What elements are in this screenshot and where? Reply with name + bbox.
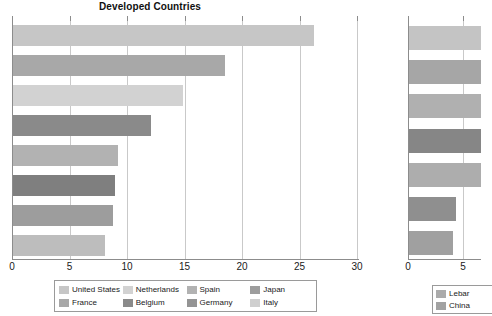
x-axis-tick-label: 25 xyxy=(294,261,305,272)
legend-label: Japan xyxy=(263,283,285,296)
second-chart-legend: LebarChina xyxy=(432,285,492,314)
legend-item[interactable]: China xyxy=(436,300,489,312)
legend-label: Germany xyxy=(200,296,233,309)
legend-item[interactable]: France xyxy=(59,296,121,309)
second-chart: 05 xyxy=(395,0,481,316)
legend-label: France xyxy=(72,296,97,309)
x-axis-tick-label: 5 xyxy=(460,261,466,272)
legend-swatch-icon xyxy=(123,299,133,307)
x-axis-labels: 051015202530 xyxy=(12,261,359,275)
legend-item[interactable]: Netherlands xyxy=(123,283,185,296)
bar xyxy=(13,175,115,196)
legend-swatch-icon xyxy=(250,299,260,307)
main-plot-area xyxy=(12,20,358,259)
legend-item[interactable]: Germany xyxy=(187,296,249,309)
x-axis-tick-label: 5 xyxy=(67,261,73,272)
legend-item[interactable]: United States xyxy=(59,283,121,296)
bar xyxy=(409,197,456,221)
legend-swatch-icon xyxy=(59,286,69,294)
legend-label: China xyxy=(449,300,470,312)
bar xyxy=(13,85,183,106)
chart-title: Developed Countries xyxy=(0,0,300,13)
legend-label: Netherlands xyxy=(136,283,179,296)
bar xyxy=(409,129,481,153)
legend-label: United States xyxy=(72,283,120,296)
bar xyxy=(409,60,481,84)
legend-label: Spain xyxy=(200,283,220,296)
main-chart-legend: United StatesNetherlandsSpainJapanFrance… xyxy=(54,280,317,312)
second-bar-series xyxy=(409,20,481,259)
legend-label: Belgium xyxy=(136,296,165,309)
developed-countries-chart: Developed Countries 051015202530 xyxy=(0,0,380,316)
legend-swatch-icon xyxy=(436,290,446,298)
second-x-axis-line xyxy=(408,259,481,260)
bar xyxy=(409,94,481,118)
x-axis-tick-label: 20 xyxy=(236,261,247,272)
legend-item[interactable]: Italy xyxy=(250,296,312,309)
bar xyxy=(13,25,314,46)
bar xyxy=(13,235,105,256)
bar xyxy=(13,205,113,226)
bar xyxy=(13,145,118,166)
bar xyxy=(13,115,151,136)
x-axis-tick-label: 0 xyxy=(405,261,411,272)
x-axis-tick-label: 10 xyxy=(121,261,132,272)
legend-swatch-icon xyxy=(187,299,197,307)
x-axis-line xyxy=(12,259,359,260)
legend-swatch-icon xyxy=(59,299,69,307)
bar xyxy=(409,26,481,50)
legend-item[interactable]: Lebar xyxy=(436,288,489,300)
legend-item[interactable]: Japan xyxy=(250,283,312,296)
x-axis-tick-label: 0 xyxy=(9,261,15,272)
bar xyxy=(409,163,481,187)
second-x-axis-labels: 05 xyxy=(408,261,481,275)
x-axis-tick-label: 15 xyxy=(179,261,190,272)
legend-swatch-icon xyxy=(250,286,260,294)
legend-swatch-icon xyxy=(436,302,446,310)
bar xyxy=(13,55,225,76)
bar-series xyxy=(13,20,358,259)
bar xyxy=(409,231,453,255)
legend-item[interactable]: Spain xyxy=(187,283,249,296)
legend-swatch-icon xyxy=(187,286,197,294)
legend-label: Italy xyxy=(263,296,278,309)
legend-label: Lebar xyxy=(449,288,469,300)
legend-item[interactable]: Belgium xyxy=(123,296,185,309)
legend-swatch-icon xyxy=(123,286,133,294)
second-plot-area xyxy=(408,20,481,259)
x-axis-tick-label: 30 xyxy=(351,261,362,272)
